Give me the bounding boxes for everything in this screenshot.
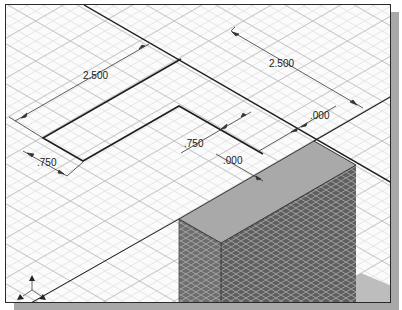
dim-left-length[interactable]: 2.500 (83, 70, 108, 81)
dim-center-width[interactable]: .750 (184, 138, 204, 149)
window-shadow-bottom (14, 303, 399, 310)
graphics-viewport[interactable]: 2.500 2.500 .750 .750 .000 .000 (5, 4, 391, 303)
dim-right-length[interactable]: 2.500 (269, 58, 294, 69)
dim-left-width[interactable]: .750 (37, 157, 57, 168)
dim-offset-lower[interactable]: .000 (223, 155, 243, 166)
dim-offset-upper[interactable]: .000 (310, 110, 330, 121)
window-shadow-right (391, 12, 399, 310)
